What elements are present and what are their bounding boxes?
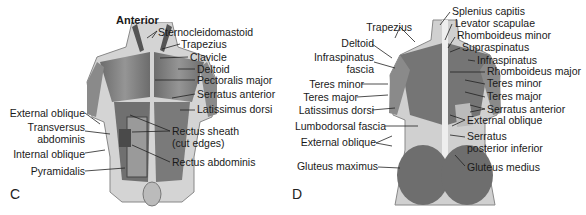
label-teres-major-left: Teres major xyxy=(303,92,358,103)
view-title-anterior: Anterior xyxy=(116,14,159,26)
label-teres-major-right: Teres major xyxy=(487,91,542,102)
label-serratus-posterior-inferior: posterior inferior xyxy=(467,143,543,154)
label-trapezius-posterior: Trapezius xyxy=(366,22,412,33)
label-teres-minor-left: Teres minor xyxy=(309,79,364,90)
label-trapezius: Trapezius xyxy=(181,39,227,50)
label-rhomboideus-minor: Rhomboideus minor xyxy=(457,30,551,41)
label-gluteus-medius: Gluteus medius xyxy=(467,162,540,173)
label-sternocleidomastoid: Sternocleidomastoid xyxy=(158,27,253,38)
label-pyramidalis: Pyramidalis xyxy=(31,166,85,177)
label-latissimus-dorsi: Latissimus dorsi xyxy=(197,104,272,115)
label-infraspinatus-fascia-1: Infraspinatus xyxy=(314,52,374,63)
label-lumbodorsal-fascia: Lumbodorsal fascia xyxy=(295,121,386,132)
label-deltoid-posterior: Deltoid xyxy=(341,38,374,49)
label-external-oblique: External oblique xyxy=(10,108,85,119)
label-rectus-sheath: Rectus sheath xyxy=(172,126,239,137)
panel-letter-d: D xyxy=(292,186,302,202)
label-serratus-posterior: Serratus xyxy=(467,131,507,142)
label-levator-scapulae: Levator scapulae xyxy=(455,18,535,29)
label-transversus: Transversus xyxy=(28,122,85,133)
label-rectus-abdominis: Rectus abdominis xyxy=(172,157,255,168)
panel-letter-c: C xyxy=(10,186,20,202)
label-rhomboideus-major: Rhomboideus major xyxy=(487,66,581,77)
label-latissimus-dorsi-posterior: Latissimus dorsi xyxy=(299,105,374,116)
label-rectus-sheath-cut-edges: (cut edges) xyxy=(172,138,225,149)
label-serratus-anterior: Serratus anterior xyxy=(197,89,275,100)
label-infraspinatus-fascia-2: fascia xyxy=(347,64,374,75)
label-clavicle: Clavicle xyxy=(190,52,227,63)
label-gluteus-maximus: Gluteus maximus xyxy=(297,161,378,172)
label-external-oblique-left: External oblique xyxy=(301,137,376,148)
label-supraspinatus: Supraspinatus xyxy=(462,42,529,53)
label-splenius-capitis: Splenius capitis xyxy=(452,6,525,17)
label-pectoralis-major: Pectoralis major xyxy=(197,75,272,86)
label-external-oblique-right: External oblique xyxy=(467,115,542,126)
label-transversus-abdominis: abdominis xyxy=(37,134,85,145)
label-teres-minor-right: Teres minor xyxy=(487,78,542,89)
label-internal-oblique: Internal oblique xyxy=(13,149,85,160)
